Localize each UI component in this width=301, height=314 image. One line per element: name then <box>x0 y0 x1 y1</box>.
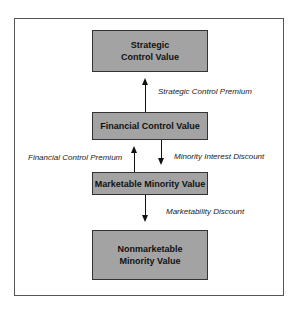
strategic-control-value-box: Strategic Control Value <box>92 30 208 72</box>
arrow-shaft <box>145 84 146 112</box>
marketability-discount-label: Marketability Discount <box>166 207 244 216</box>
strategic-control-premium-label: Strategic Control Premium <box>158 87 252 96</box>
node-label: Financial Control Value <box>100 120 200 132</box>
financial-control-premium-label: Financial Control Premium <box>28 153 122 162</box>
node-label-line: Control Value <box>121 51 179 63</box>
minority-interest-discount-label: Minority Interest Discount <box>174 152 264 161</box>
nonmarketable-minority-value-box: Nonmarketable Minority Value <box>92 230 208 280</box>
arrow-down-icon <box>158 158 164 165</box>
financial-control-value-box: Financial Control Value <box>92 112 208 140</box>
node-label-line: Strategic <box>121 39 179 51</box>
arrow-shaft <box>145 195 146 217</box>
node-label-line: Nonmarketable <box>117 243 182 255</box>
node-label: Marketable Minority Value <box>95 178 206 190</box>
arrow-up-icon <box>142 78 148 85</box>
arrow-shaft <box>134 152 135 172</box>
arrow-down-icon <box>142 215 148 222</box>
arrow-shaft <box>161 140 162 160</box>
node-label-line: Minority Value <box>117 255 182 267</box>
arrow-up-icon <box>131 146 137 153</box>
marketable-minority-value-box: Marketable Minority Value <box>92 172 208 195</box>
